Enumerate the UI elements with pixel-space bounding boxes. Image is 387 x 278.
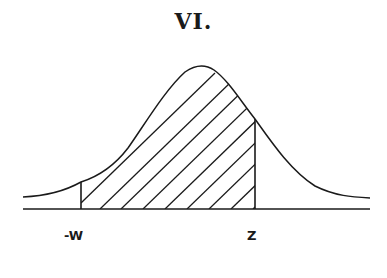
- shaded-area-hatching: [80, 54, 385, 209]
- right-bound-label: Z: [247, 228, 256, 243]
- bell-curve-diagram: [0, 0, 387, 278]
- left-bound-label: -W: [64, 228, 83, 243]
